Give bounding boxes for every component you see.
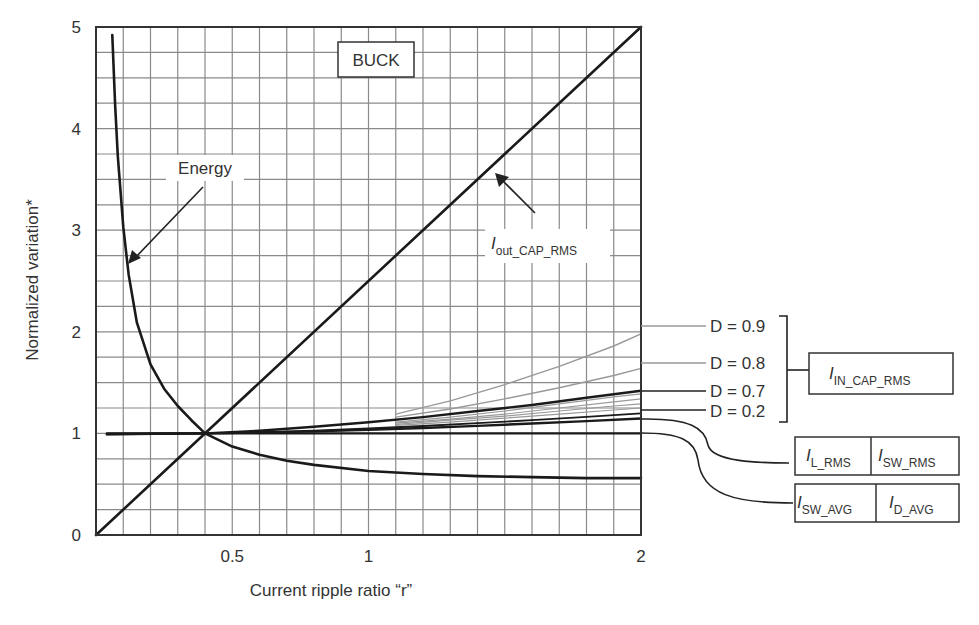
y-tick-label: 3 [72,221,81,240]
y-tick-label: 0 [72,526,81,545]
y-axis-title: Normalized variation* [23,199,42,361]
d-bracket [779,316,787,422]
energy-label: Energy [178,159,232,178]
y-tick-label: 2 [72,323,81,342]
buck-title: BUCK [352,51,400,70]
energy-arrowhead-icon [128,250,141,264]
y-axis-ticks: 012345 [72,18,81,545]
curve-d-0-9 [396,334,641,414]
x-axis-ticks: 0.512 [220,547,645,566]
buck-chart: 012345 0.512 Current ripple ratio “r” No… [0,0,979,625]
x-tick-label: 2 [636,547,645,566]
y-tick-label: 1 [72,424,81,443]
y-tick-label: 4 [72,120,81,139]
il-rms-leader [641,419,789,463]
energy-arrow [134,187,203,259]
y-tick-label: 5 [72,18,81,37]
d07-label: D = 0.7 [710,382,765,401]
x-tick-label: 1 [364,547,373,566]
iout-arrow [502,180,535,213]
isw-avg-leader [641,433,793,503]
d02-label: D = 0.2 [710,402,765,421]
x-tick-label: 0.5 [220,547,244,566]
x-axis-title: Current ripple ratio “r” [250,581,413,600]
d09-label: D = 0.9 [710,317,765,336]
d08-label: D = 0.8 [710,354,765,373]
